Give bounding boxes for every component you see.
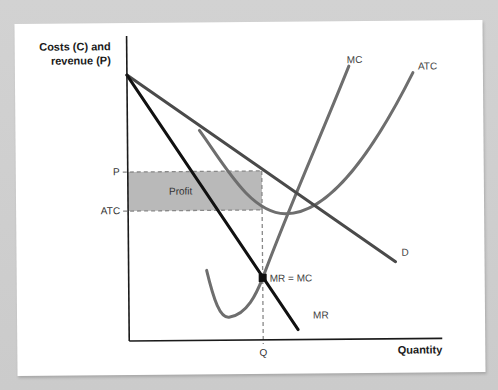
x-axis-title: Quantity (398, 343, 444, 355)
mr-label: MR (313, 309, 329, 320)
figure-panel: Profit MR = MC D MR MC ATC P ATC Q Costs… (14, 20, 485, 376)
demand-label: D (401, 247, 408, 258)
monopoly-profit-diagram: Profit MR = MC D MR MC ATC P ATC Q Costs… (14, 20, 485, 376)
x-axis (129, 338, 442, 341)
mr-mc-intersection-point (259, 274, 267, 282)
y-axis-title-line-2: revenue (P) (51, 54, 111, 67)
mc-label: MC (347, 54, 363, 65)
mr-equals-mc-label: MR = MC (270, 272, 313, 283)
profit-label: Profit (169, 186, 193, 197)
atc-label: ATC (418, 60, 437, 71)
quantity-tick-label: Q (259, 347, 267, 358)
price-tick-label: P (113, 166, 120, 177)
atc-tick-label: ATC (101, 205, 120, 216)
y-axis-title-line-1: Costs (C) and (39, 40, 111, 53)
